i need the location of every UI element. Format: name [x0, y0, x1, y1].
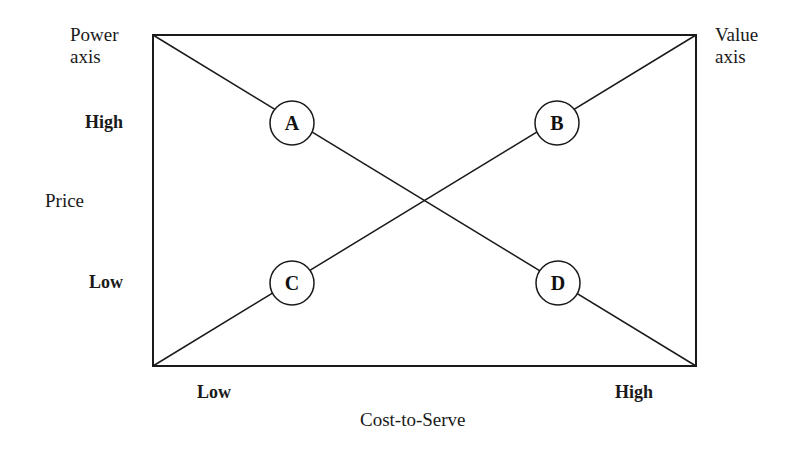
node-a[interactable]: A	[270, 101, 314, 145]
horizontal-axis-high-label: High	[615, 382, 653, 403]
node-c[interactable]: C	[270, 261, 314, 305]
vertical-axis-low-label: Low	[89, 272, 123, 293]
node-b-label: B	[550, 112, 563, 134]
value-axis-annotation-line1: Value	[715, 24, 758, 46]
node-b[interactable]: B	[535, 101, 579, 145]
node-c-label: C	[285, 272, 299, 294]
value-axis-annotation: Value axis	[715, 24, 758, 69]
node-a-label: A	[285, 112, 300, 134]
power-axis-annotation: Power axis	[70, 24, 119, 69]
horizontal-axis-title: Cost-to-Serve	[360, 409, 466, 431]
value-axis-annotation-line2: axis	[715, 46, 758, 68]
power-axis-annotation-line1: Power	[70, 24, 119, 46]
node-d-label: D	[551, 272, 565, 294]
diagram-canvas: A B C D Power axis Value axis Price High…	[0, 0, 786, 450]
vertical-axis-high-label: High	[85, 112, 123, 133]
power-axis-annotation-line2: axis	[70, 46, 119, 68]
vertical-axis-title: Price	[45, 190, 84, 212]
node-d[interactable]: D	[536, 261, 580, 305]
horizontal-axis-low-label: Low	[197, 382, 231, 403]
